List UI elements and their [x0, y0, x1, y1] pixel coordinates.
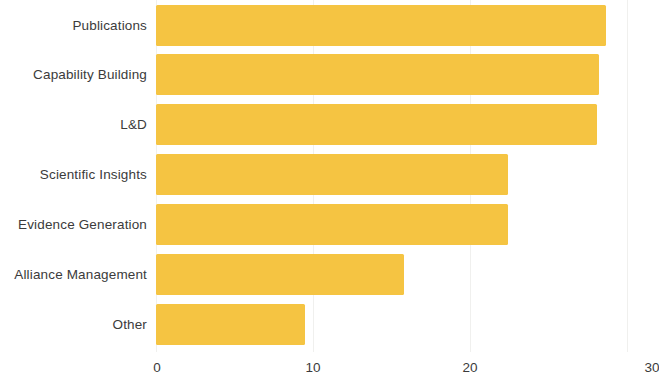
bar-publications[interactable]	[156, 5, 606, 46]
bar-l-and-d[interactable]	[156, 104, 597, 145]
bar-row: Alliance Management	[0, 254, 659, 295]
category-label: Capability Building	[0, 54, 147, 95]
x-tick-0: 0	[153, 360, 161, 375]
category-label: Other	[0, 304, 147, 345]
bar-chart: Publications Capability Building L&D Sci…	[0, 0, 659, 381]
bar-evidence-generation[interactable]	[156, 204, 508, 245]
bar-row: Scientific Insights	[0, 154, 659, 195]
category-label: Scientific Insights	[0, 154, 147, 195]
bar-row: Publications	[0, 5, 659, 46]
category-label: L&D	[0, 104, 147, 145]
bar-row: Evidence Generation	[0, 204, 659, 245]
bar-alliance-management[interactable]	[156, 254, 404, 295]
bar-row: Capability Building	[0, 54, 659, 95]
bar-other[interactable]	[156, 304, 305, 345]
x-axis: 0 10 20 30	[0, 352, 659, 381]
x-tick-30: 30	[644, 360, 659, 375]
x-tick-10: 10	[305, 360, 320, 375]
bar-scientific-insights[interactable]	[156, 154, 508, 195]
bar-capability-building[interactable]	[156, 54, 599, 95]
bar-row: Other	[0, 304, 659, 345]
bar-row: L&D	[0, 104, 659, 145]
x-tick-20: 20	[462, 360, 477, 375]
category-label: Evidence Generation	[0, 204, 147, 245]
category-label: Publications	[0, 5, 147, 46]
category-label: Alliance Management	[0, 254, 147, 295]
